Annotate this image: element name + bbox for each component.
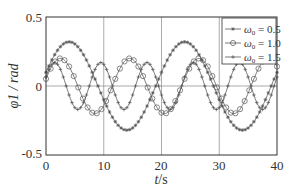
legend-label-2: ω0 = 1.5	[244, 51, 281, 65]
legend: ω0 = 0.5ω0 = 1.0ω0 = 1.5	[222, 18, 281, 65]
x-tick-30: 30	[213, 158, 226, 173]
legend-label-1: ω0 = 1.0	[244, 37, 281, 51]
y-tick-zero: 0	[36, 79, 43, 94]
chart: 0.5 0 -0.5 0 10 20 30 40 t/s φ1 / rad ω0…	[0, 0, 296, 186]
y-axis-label: φ1 / rad	[6, 62, 21, 108]
y-tick-bottom: -0.5	[21, 146, 42, 161]
x-tick-40: 40	[271, 158, 284, 173]
x-tick-0: 0	[43, 158, 50, 173]
x-tick-10: 10	[98, 158, 111, 173]
y-tick-top: 0.5	[26, 10, 42, 25]
x-tick-20: 20	[155, 158, 168, 173]
x-axis-label: t/s	[154, 172, 167, 186]
legend-label-0: ω0 = 0.5	[244, 23, 281, 37]
